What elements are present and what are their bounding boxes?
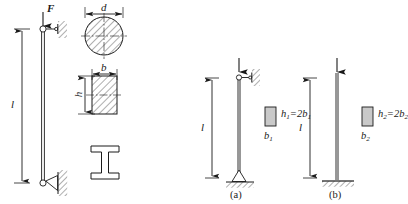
panel-a-base-label: b1 bbox=[264, 131, 273, 143]
panel-a-section-swatch bbox=[265, 107, 276, 126]
panel-a-ground-hatch bbox=[226, 182, 254, 188]
bottom-wall-hatch bbox=[58, 170, 67, 196]
panel-b-caption: (b) bbox=[329, 190, 341, 201]
rect-section-group bbox=[78, 69, 123, 114]
left-column-assembly bbox=[14, 12, 67, 196]
bottom-pin-triangle bbox=[46, 176, 58, 191]
label-length-l: l bbox=[11, 99, 14, 110]
panel-a-length-label: l bbox=[201, 122, 204, 133]
panel-a-caption: (a) bbox=[230, 190, 242, 201]
panel-b-ground-hatch bbox=[322, 181, 354, 187]
panel-b-relation: h2=2b2 bbox=[378, 109, 408, 121]
ibeam-section-group bbox=[91, 146, 119, 179]
panel-a-top-pin bbox=[236, 75, 241, 80]
panel-a-relation-b-sub: 1 bbox=[307, 113, 311, 121]
label-height-h: h bbox=[73, 89, 84, 101]
panel-b-length-label: l bbox=[299, 122, 302, 133]
panel-b-base-label: b2 bbox=[361, 131, 370, 143]
panel-a-relation-eq: =2 bbox=[290, 108, 302, 119]
panel-b-assembly bbox=[303, 58, 373, 187]
label-force-F: F bbox=[47, 3, 54, 14]
panel-a-wall-hatch bbox=[252, 69, 260, 86]
top-wall-hatch bbox=[58, 21, 67, 38]
ibeam-outline bbox=[91, 146, 119, 179]
label-width-b: b bbox=[101, 62, 107, 73]
circle-section-group bbox=[81, 7, 127, 59]
panel-a-top-roller bbox=[249, 76, 252, 79]
panel-a-base-triangle bbox=[232, 170, 246, 182]
label-diameter-d: d bbox=[101, 2, 107, 13]
panel-a-assembly bbox=[205, 58, 276, 188]
panel-a-base-sub: 1 bbox=[269, 135, 273, 143]
panel-b-base-sub: 2 bbox=[366, 135, 370, 143]
top-pin-circle bbox=[40, 26, 46, 32]
panel-b-relation-b-sub: 2 bbox=[404, 113, 408, 121]
panel-b-section-swatch bbox=[362, 107, 373, 126]
panel-a-relation: h1=2b1 bbox=[281, 109, 311, 121]
panel-b-relation-eq: =2 bbox=[387, 108, 399, 119]
